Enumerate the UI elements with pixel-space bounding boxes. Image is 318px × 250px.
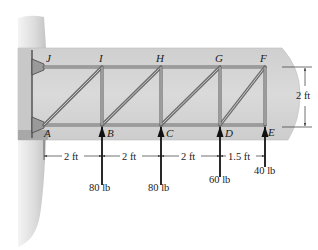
load-label-E: 40 lb [254, 165, 275, 176]
node-label-C: C [166, 127, 174, 139]
node-label-F: F [259, 52, 267, 64]
load-label-C: 80 lb [148, 182, 169, 193]
dim-label-BC: 2 ft [122, 151, 136, 162]
truss-diagram: J I H G F A B C D E 2 ft 2 ft 2 ft 1.5 f… [0, 0, 318, 250]
wall-strip [18, 48, 32, 140]
node-label-H: H [155, 52, 165, 64]
fuselage-lower [18, 140, 46, 247]
node-label-B: B [107, 127, 114, 139]
dim-label-height: 2 ft [296, 90, 310, 101]
node-label-D: D [224, 127, 233, 139]
fuselage-upper [18, 16, 46, 48]
dim-label-CD: 2 ft [181, 151, 195, 162]
node-label-G: G [215, 52, 223, 64]
load-label-D: 60 lb [209, 174, 230, 185]
dim-label-AB: 2 ft [64, 151, 78, 162]
node-label-A: A [43, 127, 51, 139]
dim-label-DE: 1.5 ft [228, 151, 250, 162]
load-label-B: 80 lb [89, 182, 110, 193]
